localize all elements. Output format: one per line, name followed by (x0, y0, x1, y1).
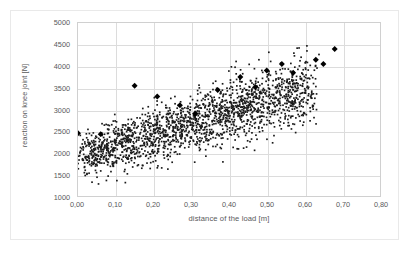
mean-marker-diamond (237, 74, 243, 80)
data-point (269, 113, 271, 115)
data-point (98, 141, 100, 143)
mean-marker-diamond (279, 61, 285, 67)
data-point (117, 144, 119, 146)
data-point (127, 136, 129, 138)
data-point (148, 119, 150, 121)
data-point (282, 68, 284, 70)
data-point (310, 75, 312, 77)
data-point (145, 129, 147, 131)
data-point (222, 96, 224, 98)
data-point (86, 173, 88, 175)
data-point (314, 103, 316, 105)
data-point (170, 149, 172, 151)
data-point (241, 81, 243, 83)
data-point (109, 153, 111, 155)
data-point (290, 117, 292, 119)
data-point (243, 147, 245, 149)
data-point (100, 154, 102, 156)
data-point (130, 152, 132, 154)
data-point (114, 155, 116, 157)
data-point (262, 89, 264, 91)
data-point (305, 67, 307, 69)
data-point (299, 60, 301, 62)
data-point (104, 139, 106, 141)
data-point (241, 106, 243, 108)
data-point (290, 104, 292, 106)
data-point (127, 123, 129, 125)
data-point (211, 97, 213, 99)
data-point (254, 118, 256, 120)
data-point (219, 109, 221, 111)
data-point (278, 88, 280, 90)
data-point (167, 110, 169, 112)
data-point (316, 109, 318, 111)
data-point (111, 144, 113, 146)
data-point (233, 133, 235, 135)
data-point (255, 122, 257, 124)
data-point (92, 142, 94, 144)
data-point (299, 96, 301, 98)
data-point (188, 132, 190, 134)
data-point (207, 98, 209, 100)
data-point (227, 119, 229, 121)
data-point (115, 126, 117, 128)
data-point (134, 137, 136, 139)
data-point (229, 107, 231, 109)
data-point (225, 93, 227, 95)
data-point (299, 76, 301, 78)
data-point (177, 141, 179, 143)
data-point (123, 149, 125, 151)
data-point (202, 122, 204, 124)
data-point (235, 112, 237, 114)
data-point (141, 126, 143, 128)
data-point (275, 73, 277, 75)
data-point (245, 83, 247, 85)
data-point (274, 105, 276, 107)
data-point (307, 95, 309, 97)
data-point (136, 139, 138, 141)
data-point (151, 141, 153, 143)
data-point (100, 148, 102, 150)
data-point (198, 147, 200, 149)
data-point (184, 114, 186, 116)
data-point (89, 133, 91, 135)
data-point (115, 140, 117, 142)
data-point (152, 161, 154, 163)
data-point (247, 140, 249, 142)
data-point (104, 147, 106, 149)
data-point (130, 149, 132, 151)
data-point (233, 109, 235, 111)
data-point (294, 108, 296, 110)
data-point (101, 162, 103, 164)
data-point (204, 106, 206, 108)
data-point (185, 128, 187, 130)
data-point (185, 116, 187, 118)
data-point (215, 123, 217, 125)
data-point (302, 106, 304, 108)
data-point (84, 175, 86, 177)
data-point (279, 77, 281, 79)
data-point (166, 121, 168, 123)
data-point (297, 85, 299, 87)
data-point (216, 144, 218, 146)
data-point (103, 148, 105, 150)
data-point (220, 111, 222, 113)
data-point (186, 134, 188, 136)
data-point (187, 126, 189, 128)
data-point (282, 109, 284, 111)
data-point (191, 118, 193, 120)
data-point (260, 121, 262, 123)
data-point (78, 155, 79, 157)
data-point (313, 117, 315, 119)
data-point (287, 109, 289, 111)
data-point (303, 80, 305, 82)
data-point (109, 136, 111, 138)
data-point (284, 90, 286, 92)
data-point (127, 127, 129, 129)
data-point (288, 94, 290, 96)
data-point (89, 164, 91, 166)
data-point (220, 106, 222, 108)
data-point (83, 147, 85, 149)
data-point (268, 91, 270, 93)
data-point (276, 105, 278, 107)
